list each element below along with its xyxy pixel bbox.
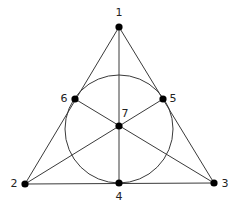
line-3-7-6 (75, 99, 214, 183)
point-label-1: 1 (116, 6, 123, 19)
point-label-3: 3 (222, 177, 229, 190)
point-3 (210, 179, 217, 186)
point-label-4: 4 (116, 190, 123, 203)
point-1 (115, 23, 122, 30)
fano-plane-diagram: 1234567 (0, 0, 239, 210)
point-label-6: 6 (61, 92, 68, 105)
point-4 (115, 179, 122, 186)
line-2-7-5 (25, 99, 163, 184)
line-1-5-3 (119, 27, 214, 183)
point-5 (159, 95, 166, 102)
point-6 (71, 95, 78, 102)
point-2 (21, 180, 28, 187)
point-7 (115, 122, 122, 129)
lines-group (25, 27, 214, 184)
point-label-5: 5 (170, 92, 177, 105)
point-label-2: 2 (11, 177, 18, 190)
point-label-7: 7 (122, 107, 129, 120)
line-1-6-2 (25, 27, 119, 184)
